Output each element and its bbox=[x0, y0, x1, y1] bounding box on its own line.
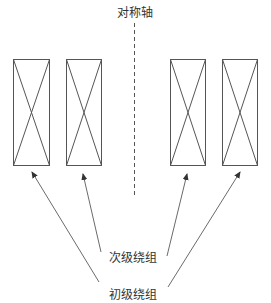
arrow-primary-right bbox=[168, 172, 240, 287]
primary-winding-label: 初级绕组 bbox=[109, 288, 157, 302]
transformer-winding-diagram: 对称轴 次级绕组 初级绕组 bbox=[0, 0, 271, 303]
winding-box-left-outer bbox=[14, 60, 50, 166]
secondary-winding-label: 次级绕组 bbox=[109, 251, 157, 265]
winding-box-right-inner bbox=[171, 60, 206, 166]
winding-box-left-inner bbox=[67, 60, 102, 166]
arrow-secondary-right bbox=[167, 174, 187, 256]
arrow-secondary-left bbox=[83, 174, 101, 252]
winding-box-right-outer bbox=[223, 60, 258, 166]
arrow-primary-left bbox=[32, 172, 99, 282]
symmetry-axis-label: 对称轴 bbox=[117, 5, 153, 20]
